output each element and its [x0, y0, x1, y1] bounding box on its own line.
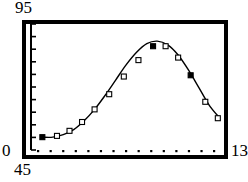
data-point-marker [54, 133, 59, 138]
data-point-marker [80, 120, 85, 125]
y-axis-max-label: 95 [15, 0, 32, 16]
x-axis-min-label: 45 [14, 161, 31, 178]
data-point-marker [121, 74, 126, 79]
data-point-marker [136, 58, 141, 63]
data-point-marker [188, 73, 193, 78]
x-axis-ticks [37, 150, 215, 152]
data-point-marker [163, 44, 168, 49]
data-curve [42, 41, 220, 137]
data-point-marker [40, 135, 45, 140]
data-point-marker [176, 55, 181, 60]
data-point-marker [215, 116, 220, 121]
data-markers [40, 44, 220, 140]
x-axis-max-label: 13 [231, 142, 248, 159]
y-axis [31, 24, 36, 150]
data-point-marker [151, 44, 156, 49]
chart-figure: 95 0 45 13 [0, 0, 248, 182]
y-axis-min-label: 0 [2, 142, 11, 159]
data-point-marker [107, 92, 112, 97]
data-point-marker [203, 99, 208, 104]
data-point-marker [67, 128, 72, 133]
data-point-marker [92, 107, 97, 112]
plot-area [22, 20, 228, 159]
